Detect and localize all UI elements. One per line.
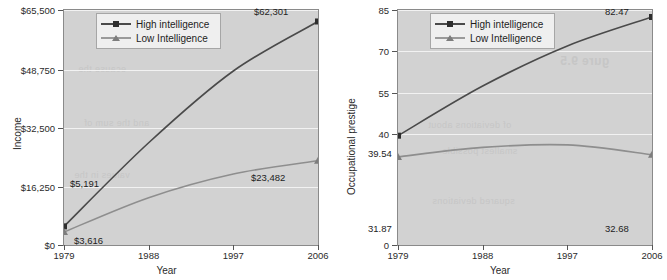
y-tick-label: 0 — [331, 240, 389, 251]
data-label-high-end-income: $62,301 — [254, 6, 288, 17]
legend-marker-square-icon — [435, 18, 465, 30]
chart-panel-prestige: gure 9.5 of deviations about smallest po… — [333, 0, 667, 280]
y-tick-mark — [58, 187, 63, 188]
x-tick-label: 1997 — [223, 250, 244, 261]
legend-item-high-intelligence: High intelligence — [101, 17, 214, 31]
legend-label-high-intelligence: High intelligence — [136, 19, 209, 30]
y-tick-label: $65,500 — [0, 5, 55, 16]
y-tick-mark — [58, 128, 63, 129]
legend-label-high-intelligence: High intelligence — [470, 19, 543, 30]
legend-item-high-intelligence: High intelligence — [435, 17, 548, 31]
data-label-low-end-income: $23,482 — [251, 172, 285, 183]
data-point-marker-square — [397, 133, 401, 139]
y-tick-label: $16,250 — [0, 181, 55, 192]
x-tick-label: 1979 — [53, 250, 74, 261]
data-label-high-end-prestige: 82.47 — [605, 6, 629, 17]
y-tick-mark — [58, 10, 63, 11]
x-tick-label: 2006 — [307, 250, 328, 261]
data-label-low-start-income: $3,616 — [74, 235, 103, 246]
legend-item-low-intelligence: Low Intelligence — [435, 31, 548, 45]
y-tick-label: $0 — [0, 240, 55, 251]
legend-item-low-intelligence: Low Intelligence — [101, 31, 214, 45]
series-line-low-intelligence — [398, 145, 652, 157]
data-point-marker-square — [649, 14, 653, 20]
y-tick-mark — [58, 245, 63, 246]
x-axis-title-prestige: Year — [333, 265, 667, 276]
y-tick-mark — [392, 10, 397, 11]
x-tick-label: 1988 — [138, 250, 159, 261]
y-tick-label: 85 — [331, 5, 389, 16]
legend-income: High intelligence Low Intelligence — [96, 13, 221, 49]
y-tick-mark — [392, 51, 397, 52]
x-tick-label: 1979 — [387, 250, 408, 261]
y-tick-mark — [58, 70, 63, 71]
legend-label-low-intelligence: Low Intelligence — [136, 33, 208, 44]
y-axis-title-prestige: Occupational prestige — [346, 98, 357, 195]
series-line-high-intelligence — [64, 21, 318, 226]
y-tick-mark — [392, 245, 397, 246]
y-tick-mark — [392, 134, 397, 135]
data-point-marker-square — [63, 223, 67, 229]
x-tick-label: 1988 — [472, 250, 493, 261]
y-tick-label: $32,500 — [0, 123, 55, 134]
data-label-low-end-prestige: 32.68 — [605, 223, 629, 234]
data-label-low-start-prestige: 31.87 — [368, 223, 392, 234]
legend-marker-triangle-icon — [101, 32, 131, 44]
data-label-high-start-income: $5,191 — [70, 178, 99, 189]
legend-marker-square-icon — [101, 18, 131, 30]
chart-panel-income: ecause the and the sum of values in the … — [0, 0, 333, 280]
data-label-high-start-prestige: 39.54 — [368, 148, 392, 159]
y-tick-label: $48,750 — [0, 65, 55, 76]
two-panel-line-chart-figure: ecause the and the sum of values in the … — [0, 0, 667, 280]
x-tick-label: 1997 — [557, 250, 578, 261]
legend-marker-triangle-icon — [435, 32, 465, 44]
legend-prestige: High intelligence Low Intelligence — [430, 13, 555, 49]
y-tick-mark — [392, 93, 397, 94]
x-tick-label: 2006 — [641, 250, 662, 261]
legend-label-low-intelligence: Low Intelligence — [470, 33, 542, 44]
data-point-marker-triangle — [314, 157, 319, 164]
data-point-marker-square — [315, 18, 319, 24]
y-tick-label: 55 — [331, 87, 389, 98]
x-axis-title-income: Year — [0, 265, 333, 276]
y-tick-label: 40 — [331, 129, 389, 140]
y-tick-label: 70 — [331, 46, 389, 57]
